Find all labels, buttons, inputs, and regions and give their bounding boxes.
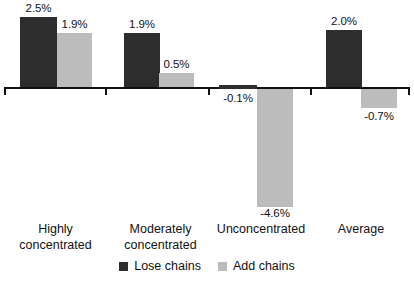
- bar-value-label: 1.9%: [45, 18, 104, 31]
- axis-tick: [310, 87, 312, 95]
- zero-baseline: [4, 87, 410, 89]
- bar-value-label: -4.6%: [247, 207, 303, 220]
- bar-lose-chains-unconcentrated: [219, 85, 257, 89]
- bar-add-chains-unconcentrated: [257, 89, 293, 207]
- bar-value-label: 1.9%: [112, 18, 172, 31]
- category-label-moderately-concentrated: Moderately concentrated: [108, 222, 213, 253]
- legend-swatch-icon: [218, 262, 227, 271]
- bar-lose-chains-average: [326, 30, 362, 87]
- category-label-unconcentrated: Unconcentrated: [206, 222, 316, 238]
- legend-label: Lose chains: [134, 259, 201, 273]
- axis-tick: [105, 87, 107, 95]
- bar-value-label: 0.5%: [147, 58, 206, 71]
- legend-item-lose-chains: Lose chains: [119, 259, 201, 273]
- legend-label: Add chains: [233, 259, 295, 273]
- axis-tick: [408, 87, 410, 95]
- bar-chart: 2.5% 1.9% 1.9% 0.5% -0.1% -4.6% 2.0% -0.…: [0, 0, 414, 285]
- chart-legend: Lose chains Add chains: [0, 259, 414, 273]
- axis-tick: [4, 87, 6, 95]
- category-label-highly-concentrated: Highly concentrated: [5, 222, 106, 253]
- plot-area: 2.5% 1.9% 1.9% 0.5% -0.1% -4.6% 2.0% -0.…: [0, 0, 414, 218]
- bar-add-chains-highly-concentrated: [57, 33, 92, 87]
- bar-value-label: 2.5%: [8, 2, 69, 15]
- bar-add-chains-moderately-concentrated: [159, 73, 194, 87]
- bar-value-label: -0.7%: [350, 110, 408, 123]
- bar-value-label: 2.0%: [314, 15, 374, 28]
- bar-add-chains-average: [361, 89, 397, 108]
- legend-swatch-icon: [119, 262, 128, 271]
- category-label-average: Average: [312, 222, 410, 238]
- legend-item-add-chains: Add chains: [218, 259, 295, 273]
